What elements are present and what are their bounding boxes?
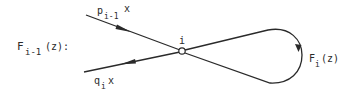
- graph-label-suffix: (z):: [45, 41, 69, 52]
- outgoing-edge: [84, 52, 180, 72]
- graph-label-main: F: [17, 40, 24, 53]
- incoming-edge-label-suffix: x: [124, 3, 130, 14]
- self-loop: [185, 29, 302, 83]
- outgoing-edge-label-main: q: [94, 75, 100, 86]
- node-circle-icon: [179, 48, 185, 54]
- incoming-edge-label-subscript: i-1: [104, 12, 119, 21]
- graph-label-subscript: i-1: [25, 47, 41, 57]
- outgoing-edge-label-subscript: i: [101, 82, 106, 91]
- arrow-left-icon: [121, 59, 136, 64]
- outgoing-edge-label: q i x: [94, 75, 114, 91]
- outgoing-edge-label-suffix: x: [108, 75, 114, 86]
- self-loop-label: F i (z): [309, 53, 339, 69]
- graph-label: F i-1 (z):: [17, 40, 69, 57]
- node-i: i: [179, 35, 185, 54]
- incoming-edge-label-main: p: [97, 5, 103, 16]
- arrow-right-icon: [116, 25, 132, 33]
- node-label: i: [179, 35, 185, 46]
- signal-flow-diagram: F i-1 (z): p i-1 x q i x F i (z) i: [0, 0, 358, 96]
- self-loop-label-subscript: i: [315, 60, 320, 69]
- incoming-edge-label: p i-1 x: [97, 3, 130, 21]
- incoming-edge: [86, 15, 180, 50]
- self-loop-label-suffix: (z): [321, 53, 339, 64]
